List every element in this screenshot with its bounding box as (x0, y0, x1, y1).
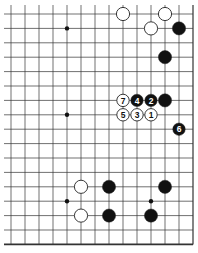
black-stone-move-2: 2 (145, 94, 157, 106)
black-stone (102, 209, 115, 222)
move-number: 7 (121, 96, 126, 106)
go-board: 7425316 (0, 0, 198, 253)
white-stone (158, 7, 171, 20)
black-stone (158, 94, 171, 107)
white-stone-move-5: 5 (117, 109, 129, 121)
black-stone-move-6: 6 (173, 123, 185, 135)
white-stone (116, 7, 129, 20)
star-point (65, 199, 69, 203)
white-stone (74, 180, 87, 193)
white-stone-move-1: 1 (145, 109, 157, 121)
black-stone-move-4: 4 (131, 94, 143, 106)
black-stone (158, 180, 171, 193)
star-point (149, 199, 153, 203)
star-point (65, 113, 69, 117)
white-stone (74, 209, 87, 222)
move-number: 1 (149, 110, 154, 120)
star-point (65, 26, 69, 30)
black-stone (102, 180, 115, 193)
move-number: 5 (121, 110, 126, 120)
white-stone-move-7: 7 (117, 94, 129, 106)
black-stone (144, 209, 157, 222)
move-number: 2 (149, 96, 154, 106)
move-number: 3 (135, 110, 140, 120)
white-stone-move-3: 3 (131, 109, 143, 121)
black-stone (158, 51, 171, 64)
black-stone (172, 22, 185, 35)
move-number: 4 (135, 96, 140, 106)
white-stone (144, 22, 157, 35)
board-grid (4, 5, 193, 244)
move-number: 6 (177, 124, 182, 134)
